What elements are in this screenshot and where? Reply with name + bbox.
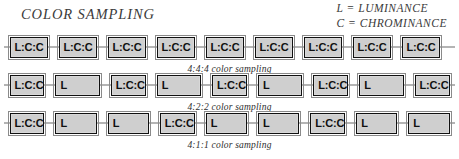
diagram-header: COLOR SAMPLING L = LUMINANCE C = CHROMIN… — [0, 0, 459, 34]
sample-cell-label: L:C:C — [354, 42, 387, 53]
sample-cell-lcc: L:C:C — [10, 113, 45, 134]
sampling-row-444: L:C:CL:C:CL:C:CL:C:CL:C:CL:C:CL:C:CL:C:C… — [0, 34, 459, 75]
row-caption: 4:1:1 color sampling — [0, 139, 459, 151]
sample-cell-label: L — [360, 80, 371, 91]
sample-cell-lcc: L:C:C — [10, 75, 45, 96]
sample-cell-label: L:C:C — [11, 42, 44, 53]
sample-cell-luminance: L — [356, 113, 397, 134]
sample-cell-luminance: L — [55, 75, 99, 96]
sample-cell-lcc: L:C:C — [255, 37, 293, 58]
sample-cell-label: L — [409, 118, 420, 129]
sample-cell-lcc: L:C:C — [304, 37, 342, 58]
sample-cell-label: L:C:C — [11, 118, 44, 129]
sample-cell-luminance: L — [258, 113, 299, 134]
page-title: COLOR SAMPLING — [21, 6, 155, 23]
cell-chain: L:C:CL:C:CL:C:CL:C:CL:C:CL:C:CL:C:CL:C:C… — [0, 34, 459, 60]
cell-chain: L:C:CLLL:C:CLLL:C:CLL — [0, 110, 459, 136]
sampling-row-411: L:C:CLLL:C:CLLL:C:CLL 4:1:1 color sampli… — [0, 110, 459, 151]
sample-cell-label: L:C:C — [256, 42, 289, 53]
sample-cell-label: L — [56, 80, 67, 91]
sample-cell-label: L:C:C — [403, 42, 436, 53]
sample-cell-label: L:C:C — [161, 118, 194, 129]
sample-cell-lcc: L:C:C — [10, 37, 48, 58]
sample-cell-lcc: L:C:C — [108, 37, 146, 58]
sample-cell-lcc: L:C:C — [353, 37, 391, 58]
sample-cell-label: L:C:C — [314, 80, 347, 91]
sample-cell-label: L:C:C — [207, 42, 240, 53]
cell-chain: L:C:CLL:C:CLL:C:CLL:C:CLL:C:C — [0, 72, 459, 98]
sample-cell-luminance: L — [108, 113, 149, 134]
sample-cell-luminance: L — [359, 75, 403, 96]
sample-cell-lcc: L:C:C — [310, 113, 345, 134]
sample-cell-label: L:C:C — [213, 80, 246, 91]
sample-cell-label: L:C:C — [11, 80, 44, 91]
sample-cell-lcc: L:C:C — [160, 113, 195, 134]
sample-cell-luminance: L — [206, 113, 247, 134]
sample-cell-label: L:C:C — [112, 80, 145, 91]
sample-cell-lcc: L:C:C — [157, 37, 195, 58]
sample-cell-label: L:C:C — [60, 42, 93, 53]
sampling-row-422: L:C:CLL:C:CLL:C:CLL:C:CLL:C:C 4:2:2 colo… — [0, 72, 459, 113]
sample-cell-luminance: L — [258, 75, 302, 96]
sample-cell-label: L — [56, 118, 67, 129]
sample-cell-luminance: L — [408, 113, 449, 134]
legend-item-luminance: L = LUMINANCE — [337, 1, 447, 16]
sample-cell-lcc: L:C:C — [59, 37, 97, 58]
sample-cell-lcc: L:C:C — [111, 75, 146, 96]
sample-cell-label: L — [158, 80, 169, 91]
legend: L = LUMINANCE C = CHROMINANCE — [337, 1, 447, 30]
sample-cell-label: L — [207, 118, 218, 129]
sample-cell-label: L — [109, 118, 120, 129]
sample-cell-label: L:C:C — [158, 42, 191, 53]
sample-cell-label: L:C:C — [109, 42, 142, 53]
sample-cell-lcc: L:C:C — [313, 75, 348, 96]
sample-cell-label: L — [357, 118, 368, 129]
sample-cell-label: L:C:C — [311, 118, 344, 129]
sample-cell-luminance: L — [55, 113, 96, 134]
sample-cell-label: L — [259, 118, 270, 129]
sample-cell-lcc: L:C:C — [212, 75, 247, 96]
sample-cell-luminance: L — [157, 75, 201, 96]
sample-cell-label: L:C:C — [416, 80, 449, 91]
sample-cell-label: L:C:C — [305, 42, 338, 53]
legend-item-chrominance: C = CHROMINANCE — [337, 16, 447, 31]
sample-cell-lcc: L:C:C — [415, 75, 450, 96]
color-sampling-diagram: COLOR SAMPLING L = LUMINANCE C = CHROMIN… — [0, 0, 459, 159]
sample-cell-lcc: L:C:C — [402, 37, 440, 58]
sample-cell-lcc: L:C:C — [206, 37, 244, 58]
sample-cell-label: L — [259, 80, 270, 91]
